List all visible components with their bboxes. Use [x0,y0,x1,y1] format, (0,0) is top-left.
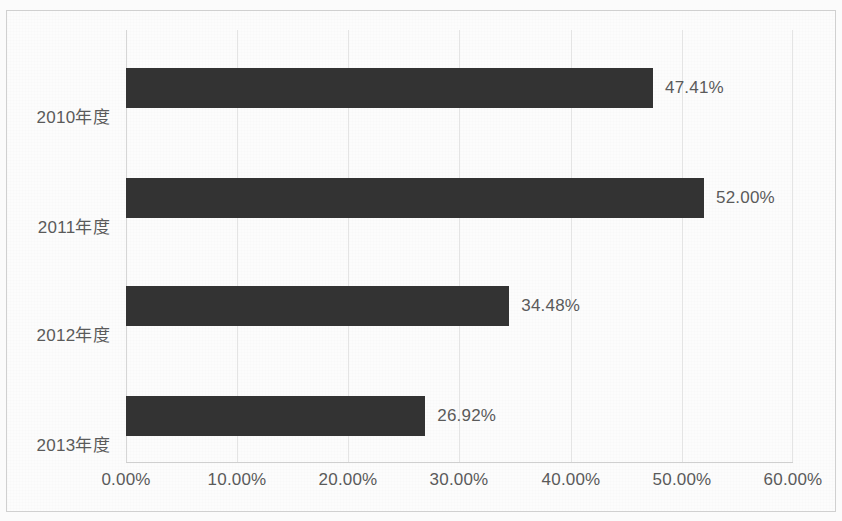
x-axis-label-40: 40.00% [542,470,601,490]
gridline-60 [792,30,793,462]
bar-2011 [126,178,704,218]
y-axis-label-2: 2012年度 [36,316,110,356]
bar-value-2011: 52.00% [716,188,775,208]
x-axis-label-60: 60.00% [764,470,823,490]
x-axis-label-10: 10.00% [208,470,267,490]
bar-value-2012: 34.48% [521,296,580,316]
x-axis-tick-labels: 0.00% 10.00% 20.00% 30.00% 40.00% 50.00%… [0,470,842,500]
bar-chart: 2010年度 2011年度 2012年度 2013年度 47.41% 52.00… [0,0,842,521]
bar-value-2013: 26.92% [437,406,496,426]
bar-value-2010: 47.41% [665,78,724,98]
x-axis-label-0: 0.00% [101,470,150,490]
bar-2013 [126,396,425,436]
x-axis-label-20: 20.00% [319,470,378,490]
y-axis-label-0: 2010年度 [36,98,110,138]
bar-2012 [126,286,509,326]
x-axis-label-50: 50.00% [653,470,712,490]
y-axis-category-labels: 2010年度 2011年度 2012年度 2013年度 [0,30,118,462]
x-axis-label-30: 30.00% [430,470,489,490]
plot-area: 47.41% 52.00% 34.48% 26.92% [126,30,793,462]
x-axis-line [126,462,793,463]
y-axis-label-1: 2011年度 [38,208,110,248]
y-axis-label-3: 2013年度 [36,426,110,466]
bar-2010 [126,68,653,108]
